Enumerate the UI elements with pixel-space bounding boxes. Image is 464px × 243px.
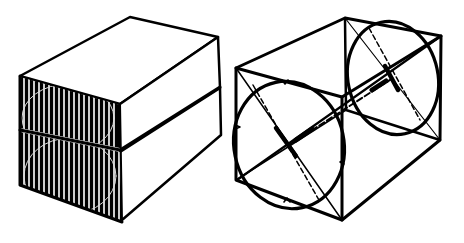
central-axis xyxy=(237,36,441,180)
illustration xyxy=(0,0,464,243)
stacked-blocks xyxy=(18,17,221,226)
tangent-ticks xyxy=(235,80,344,202)
wireframe-box xyxy=(222,13,449,220)
